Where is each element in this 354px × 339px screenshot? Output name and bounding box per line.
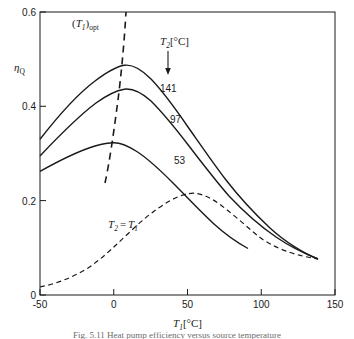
y-tick-label: 0.6	[22, 7, 36, 18]
caption-text: Fig. 5.11 Heat pump efficiency versus so…	[73, 330, 281, 339]
x-tick-label: 100	[253, 299, 270, 310]
x-tick-labels: -50 0 50 100 150	[33, 299, 344, 310]
curve-equal-temperature	[40, 193, 318, 287]
x-tick-label: -50	[33, 299, 48, 310]
legend-head: T2[°C]	[160, 35, 189, 75]
svg-text:(T1)opt: (T1)opt	[72, 17, 100, 32]
x-tick-label: 0	[111, 299, 117, 310]
equal-subscript-a: 2	[114, 224, 118, 233]
optimum-label: (T1)opt	[72, 17, 100, 32]
svg-text:T2=T1: T2=T1	[108, 218, 138, 233]
chart-plot: 0.6 0.4 0.2 0 -50 0 50 100 150 ηQ T1[°C]	[0, 0, 354, 339]
equal-sign: =	[120, 218, 126, 230]
legend-arrow-icon	[165, 51, 171, 75]
curve-label-53: 53	[174, 155, 186, 166]
x-axis-unit: [°C]	[183, 317, 202, 329]
figure-caption: Fig. 5.11 Heat pump efficiency versus so…	[73, 330, 281, 339]
y-axis-subscript: Q	[19, 67, 25, 76]
y-axis-title: ηQ	[14, 61, 25, 76]
y-tick-label: 0.2	[22, 196, 36, 207]
curve-value-labels: 141 97 53	[160, 83, 186, 166]
x-axis-ticks	[40, 289, 335, 295]
figure-container: 0.6 0.4 0.2 0 -50 0 50 100 150 ηQ T1[°C]	[0, 0, 354, 339]
svg-text:T2[°C]: T2[°C]	[160, 35, 189, 50]
svg-text:ηQ: ηQ	[14, 61, 25, 76]
y-tick-labels: 0.6 0.4 0.2 0	[22, 7, 36, 301]
x-tick-label: 150	[327, 299, 344, 310]
x-tick-label: 50	[182, 299, 194, 310]
curve-label-141: 141	[160, 83, 177, 94]
optimum-subscript-opt: opt	[89, 23, 100, 32]
y-tick-label: 0.4	[22, 101, 36, 112]
equal-subscript-b: 1	[134, 224, 138, 233]
equal-temperature-label: T2=T1	[108, 218, 138, 233]
curve-53	[40, 143, 248, 249]
legend-unit: [°C]	[170, 35, 189, 47]
curve-label-97: 97	[170, 114, 182, 125]
optimum-line	[105, 12, 126, 183]
